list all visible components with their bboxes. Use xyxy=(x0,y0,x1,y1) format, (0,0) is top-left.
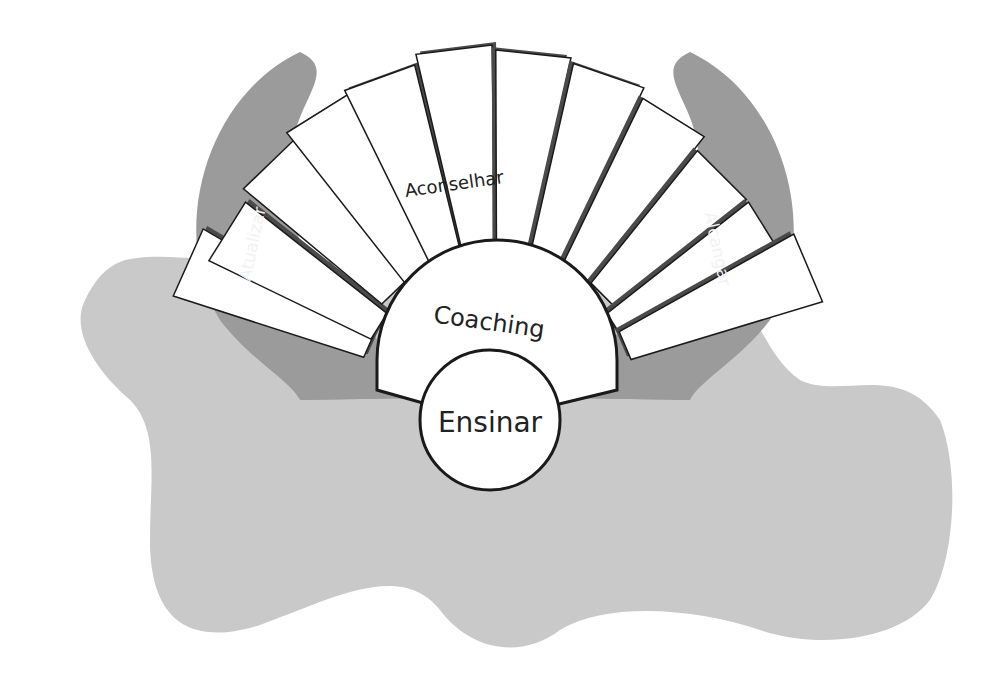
coaching-diagram: Ensinar Coaching Aconselhar Atualizar Al… xyxy=(0,0,992,684)
ensinar-label: Ensinar xyxy=(438,406,543,439)
